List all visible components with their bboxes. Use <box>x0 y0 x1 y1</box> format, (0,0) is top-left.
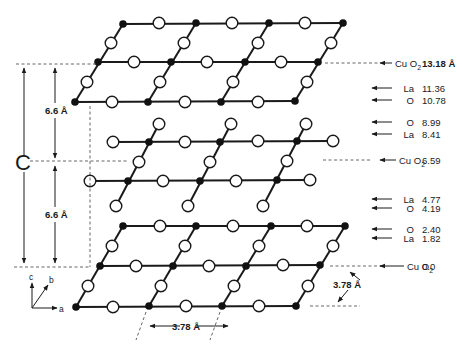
layer-label-row: La8.41 <box>372 129 441 140</box>
c-axis-label: C <box>15 150 31 175</box>
layer-label-row: O10.78 <box>372 95 446 106</box>
interlayer-spacing-upper: 6.6 Å <box>45 68 68 158</box>
axis-b-label: b <box>49 275 54 285</box>
axes-triad: c b a <box>29 272 64 314</box>
layer-species: O <box>407 95 414 106</box>
layer-species: Cu O2 <box>395 58 421 71</box>
lattice-b-label: 3.78 Å <box>333 279 361 290</box>
layer-label-row: Cu O20.0 <box>380 261 435 274</box>
spacing-label-upper: 6.6 Å <box>45 105 68 116</box>
layer-label-row: O8.99 <box>372 117 441 128</box>
c-axis-dimension: C <box>15 68 31 263</box>
layer-height-value: 0.0 <box>422 261 435 272</box>
crystal-structure-diagram: C 6.6 Å 6.6 Å 3.78 Å 3.78 Å c b a Cu O21… <box>0 0 462 354</box>
layer-height-value: 10.78 <box>422 95 446 106</box>
layer-height-value: 8.99 <box>422 117 441 128</box>
layer-species: La <box>403 233 414 244</box>
interlayer-spacing-lower: 6.6 Å <box>45 166 68 263</box>
cuo2-layer-top <box>71 17 347 108</box>
layer-label-row: Cu O26.59 <box>380 155 441 168</box>
layer-height-value: 6.59 <box>422 155 441 166</box>
layer-label-row: O4.19 <box>372 203 441 214</box>
layer-label-row: La11.36 <box>372 83 445 94</box>
cuo2-layer-middle <box>84 118 339 212</box>
layer-species: La <box>403 129 414 140</box>
guide-lines <box>14 63 382 340</box>
layer-height-value: 1.82 <box>422 233 441 244</box>
layer-height-value: 11.36 <box>422 83 445 94</box>
axis-a-label: a <box>59 304 64 314</box>
layer-label-row: Cu O213.18 Å <box>380 58 455 71</box>
layer-species: La <box>403 83 414 94</box>
layer-species: O <box>407 203 414 214</box>
lattice-constant-b: 3.78 Å <box>333 272 361 302</box>
layer-label-row: La1.82 <box>372 233 441 244</box>
layer-height-labels: Cu O213.18 ÅLa11.36O10.78O8.99La8.41Cu O… <box>372 58 455 274</box>
spacing-label-lower: 6.6 Å <box>45 209 68 220</box>
layer-height-value: 4.19 <box>422 203 441 214</box>
axis-c-label: c <box>29 272 34 282</box>
layer-height-value: 13.18 Å <box>422 58 455 69</box>
lattice-a-label: 3.78 Å <box>172 321 200 332</box>
layer-species: O <box>407 117 414 128</box>
cuo2-layer-bottom <box>72 220 349 313</box>
layer-height-value: 8.41 <box>422 129 441 140</box>
